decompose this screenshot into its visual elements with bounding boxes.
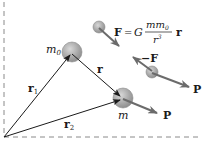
vector-r2 xyxy=(4,100,120,137)
label-neg-F: −F xyxy=(141,52,158,65)
label-r: r xyxy=(97,63,103,76)
svg-text:r3: r3 xyxy=(153,33,162,45)
svg-text:r: r xyxy=(176,26,182,39)
mass-m0-sphere xyxy=(62,42,82,62)
label-m: m xyxy=(118,109,128,122)
diagram-canvas: m0 r r1 r2 m −F P P F = G mm0 r3 r xyxy=(0,0,205,154)
vector-r1 xyxy=(4,55,70,137)
mass-m-sphere xyxy=(113,88,133,108)
label-P-lower: P xyxy=(163,109,171,122)
svg-text:G: G xyxy=(134,26,143,39)
label-r2: r2 xyxy=(64,118,74,132)
vector-r xyxy=(72,54,120,96)
gravitation-equation: F = G mm0 r3 r xyxy=(114,19,182,45)
svg-text:mm0: mm0 xyxy=(146,19,169,31)
svg-text:=: = xyxy=(124,27,132,38)
label-P-upper: P xyxy=(193,83,201,96)
label-r1: r1 xyxy=(28,82,38,96)
label-m0: m0 xyxy=(46,43,61,57)
svg-text:F: F xyxy=(114,26,122,39)
momentum-arrow-P-upper xyxy=(152,73,189,87)
